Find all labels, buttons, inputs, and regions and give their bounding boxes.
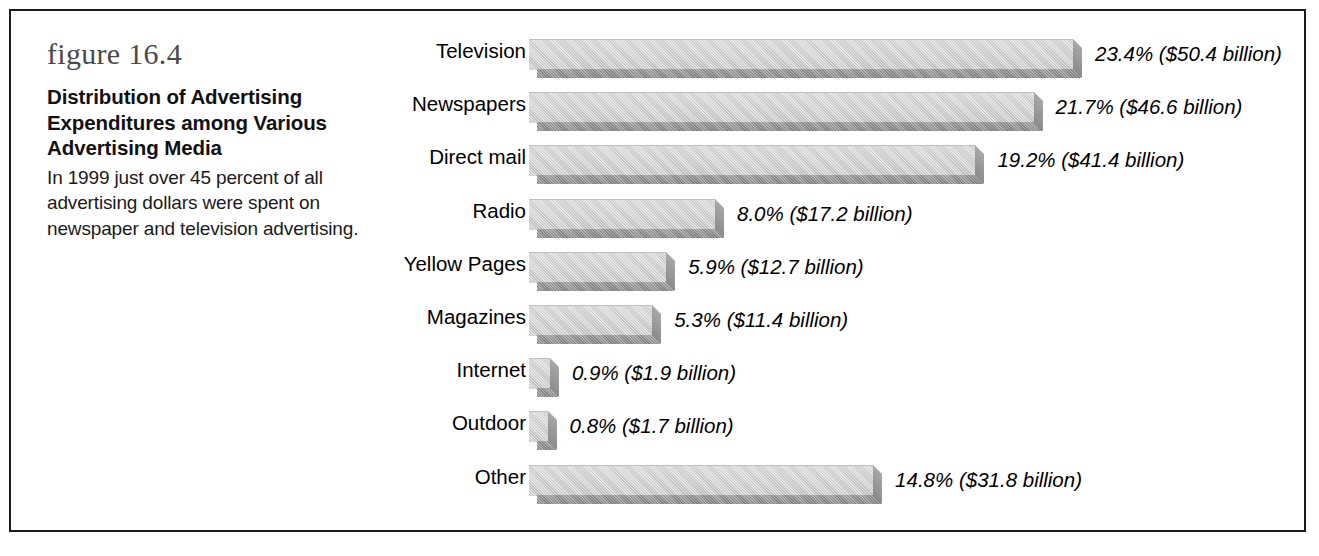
bar-face bbox=[529, 39, 1073, 70]
bar-bottom-shadow bbox=[537, 335, 660, 344]
bar-value-label: 23.4% ($50.4 billion) bbox=[1095, 41, 1282, 67]
bar-category-label: Television bbox=[226, 39, 526, 63]
bar-value-label: 8.0% ($17.2 billion) bbox=[737, 201, 913, 227]
bar bbox=[529, 305, 661, 351]
bar-face bbox=[529, 199, 715, 230]
bar-face bbox=[529, 92, 1034, 123]
bar-value-label: 19.2% ($41.4 billion) bbox=[997, 147, 1184, 173]
bar-bottom-shadow bbox=[537, 175, 983, 184]
bar-value-label: 0.8% ($1.7 billion) bbox=[570, 413, 734, 439]
bar-row: Television23.4% ($50.4 billion) bbox=[11, 39, 1308, 85]
bar-row: Direct mail19.2% ($41.4 billion) bbox=[11, 145, 1308, 191]
bar-bottom-shadow bbox=[537, 495, 881, 504]
bar-bottom-shadow bbox=[537, 282, 674, 291]
bar-row: Other14.8% ($31.8 billion) bbox=[11, 465, 1308, 511]
bar-category-label: Outdoor bbox=[226, 411, 526, 435]
bar-row: Internet0.9% ($1.9 billion) bbox=[11, 358, 1308, 404]
bar-face bbox=[529, 465, 873, 496]
bar-category-label: Direct mail bbox=[226, 145, 526, 169]
bar bbox=[529, 199, 724, 245]
bar-value-label: 0.9% ($1.9 billion) bbox=[572, 360, 736, 386]
bar-category-label: Yellow Pages bbox=[226, 252, 526, 276]
figure-container: figure 16.4 Distribution of Advertising … bbox=[0, 0, 1319, 556]
bar-category-label: Other bbox=[226, 465, 526, 489]
bar bbox=[529, 92, 1043, 138]
bar bbox=[529, 252, 675, 298]
bar-face bbox=[529, 252, 666, 283]
bar-value-label: 14.8% ($31.8 billion) bbox=[895, 467, 1082, 493]
bar-bottom-shadow bbox=[537, 229, 723, 238]
bar-row: Yellow Pages5.9% ($12.7 billion) bbox=[11, 252, 1308, 298]
bar-value-label: 5.3% ($11.4 billion) bbox=[674, 307, 848, 333]
bar-face bbox=[529, 411, 548, 442]
bar-face bbox=[529, 305, 652, 336]
bar bbox=[529, 39, 1082, 85]
bar-bottom-shadow bbox=[537, 122, 1042, 131]
bar-face bbox=[529, 358, 550, 389]
bar bbox=[529, 145, 984, 191]
bar bbox=[529, 411, 557, 457]
bar bbox=[529, 465, 882, 511]
bar-row: Outdoor0.8% ($1.7 billion) bbox=[11, 411, 1308, 457]
bar-category-label: Magazines bbox=[226, 305, 526, 329]
bar-row: Radio8.0% ($17.2 billion) bbox=[11, 199, 1308, 245]
bar-category-label: Radio bbox=[226, 199, 526, 223]
bar-value-label: 5.9% ($12.7 billion) bbox=[688, 254, 864, 280]
bar-row: Newspapers21.7% ($46.6 billion) bbox=[11, 92, 1308, 138]
bar-category-label: Newspapers bbox=[226, 92, 526, 116]
bar-chart: Television23.4% ($50.4 billion)Newspaper… bbox=[11, 11, 1308, 530]
figure-frame: figure 16.4 Distribution of Advertising … bbox=[9, 9, 1306, 532]
bar-bottom-shadow bbox=[537, 69, 1081, 78]
bar-category-label: Internet bbox=[226, 358, 526, 382]
bar-row: Magazines5.3% ($11.4 billion) bbox=[11, 305, 1308, 351]
bar-value-label: 21.7% ($46.6 billion) bbox=[1056, 94, 1243, 120]
bar bbox=[529, 358, 559, 404]
bar-face bbox=[529, 145, 975, 176]
